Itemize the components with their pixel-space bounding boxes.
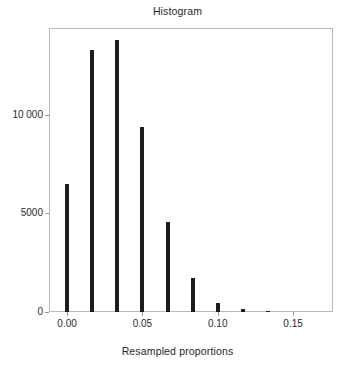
histogram-bar xyxy=(65,184,69,312)
x-tick-label: 0.00 xyxy=(45,318,89,329)
x-tick-label: 0.10 xyxy=(196,318,240,329)
histogram-bar xyxy=(241,309,245,312)
x-tick-mark xyxy=(293,312,294,316)
y-tick-label: 0 xyxy=(0,306,43,317)
histogram-bar xyxy=(90,50,94,312)
x-tick-mark xyxy=(142,312,143,316)
y-tick-mark xyxy=(45,312,49,313)
y-tick-label: 10 000 xyxy=(0,109,43,120)
x-tick-mark xyxy=(218,312,219,316)
histogram-bar xyxy=(140,127,144,312)
histogram-bar xyxy=(166,222,170,312)
y-tick-label: 5000 xyxy=(0,207,43,218)
histogram-bar xyxy=(216,303,220,312)
y-tick-mark xyxy=(45,213,49,214)
histogram-bar xyxy=(191,278,195,312)
x-tick-mark xyxy=(67,312,68,316)
x-tick-label: 0.15 xyxy=(271,318,315,329)
histogram-chart: Histogram 0500010 000 0.000.050.100.15 R… xyxy=(0,0,355,369)
histogram-bar xyxy=(266,311,270,312)
chart-title: Histogram xyxy=(0,5,355,17)
x-axis-title: Resampled proportions xyxy=(0,345,355,357)
x-tick-label: 0.05 xyxy=(120,318,164,329)
y-tick-mark xyxy=(45,115,49,116)
histogram-bar xyxy=(115,40,119,312)
plot-area xyxy=(49,28,333,312)
